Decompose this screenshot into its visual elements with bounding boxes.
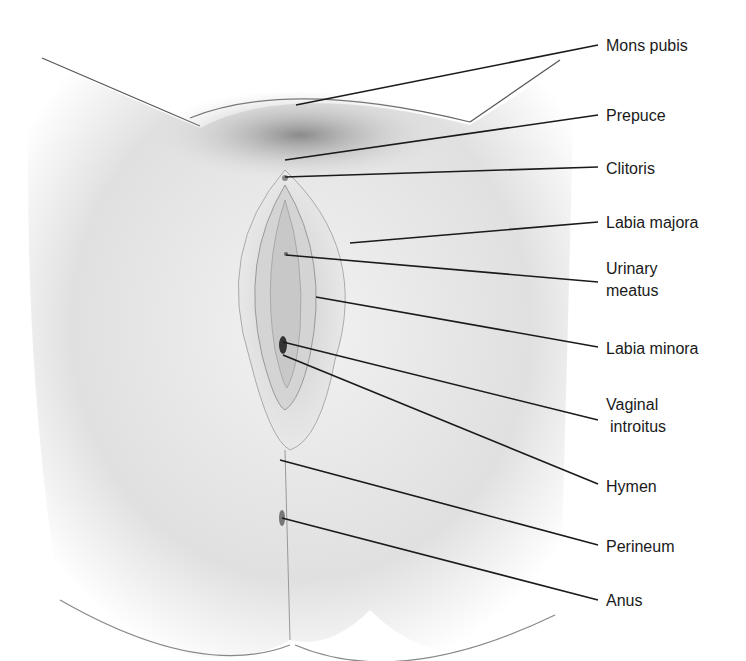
label-prepuce: Prepuce — [606, 105, 666, 127]
label-anus: Anus — [606, 590, 642, 612]
label-clitoris: Clitoris — [606, 158, 655, 180]
label-mons-pubis: Mons pubis — [606, 35, 688, 57]
clitoris-mark — [282, 175, 288, 181]
label-hymen: Hymen — [606, 476, 657, 498]
label-labia-minora: Labia minora — [606, 338, 699, 360]
label-perineum: Perineum — [606, 536, 674, 558]
label-vaginal-introitus: Vaginalintroitus — [606, 394, 666, 438]
anatomy-illustration — [0, 0, 746, 661]
label-urinary-meatus: Urinarymeatus — [606, 258, 658, 302]
label-labia-majora: Labia majora — [606, 212, 699, 234]
vaginal-introitus-mark — [279, 336, 287, 354]
